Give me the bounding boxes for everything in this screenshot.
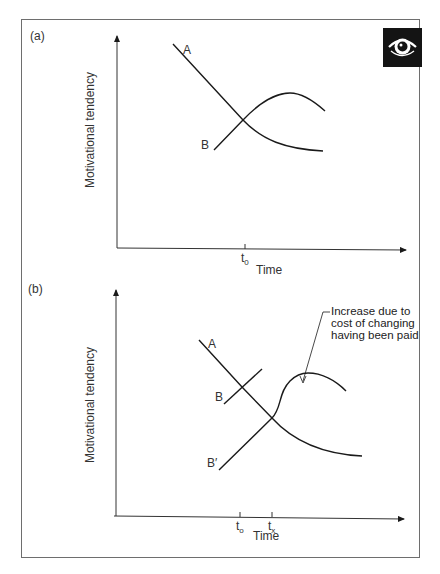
panel-b-label: (b) <box>28 282 43 296</box>
annotation-line-1: Increase due to <box>331 305 440 317</box>
annotation-arrowhead <box>300 376 306 383</box>
annotation-text: Increase due to cost of changing having … <box>331 305 440 341</box>
panel-a-curves <box>173 44 325 151</box>
panel-b-y-label: Motivational tendency <box>83 325 97 485</box>
panel-b-curve-B-label: B <box>215 390 223 404</box>
panel-b-x-axis <box>114 516 404 519</box>
panel-a-curve-A-label: A <box>183 43 191 57</box>
panel-b-curve-B-prime <box>219 373 346 470</box>
annotation-leader <box>303 312 330 381</box>
panel-a-y-label: Motivational tendency <box>83 50 97 210</box>
panel-a-x-axis <box>117 248 406 250</box>
panel-a-tick-label-t0: t0 <box>241 251 249 267</box>
annotation-line-2: cost of changing <box>331 317 440 329</box>
annotation-line-3: having been paid <box>331 329 440 341</box>
panel-a-curve-B <box>214 93 325 150</box>
panel-a-curve-B-label: B <box>201 138 209 152</box>
panel-a-curve-A <box>173 44 323 151</box>
panel-b-curve-A-label: A <box>208 337 216 351</box>
panel-b-tick-label-tx: tx <box>268 519 275 535</box>
panel-b-curve-B-prime-label: B′ <box>207 456 217 470</box>
diagram-canvas <box>0 0 440 574</box>
panel-b-tick-label-to: to <box>236 519 244 535</box>
panel-a-axes <box>117 36 406 250</box>
panel-a-label: (a) <box>30 29 45 43</box>
panel-a-x-label: Time <box>256 263 282 277</box>
